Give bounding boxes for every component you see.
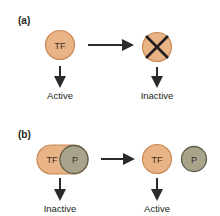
state-label-active: Active [144,203,170,214]
tf-inactivated-node [143,33,172,62]
panel-b: (b) TF P TF P Inactive Active [18,129,207,214]
tf-p-complex: TF P [37,145,88,174]
p-label: P [72,155,78,165]
panel-b-label: (b) [18,129,31,140]
tf-label: TF [47,155,58,165]
p-label: P [191,155,197,165]
tf-free-node: TF [143,145,172,174]
diagram-canvas: (a) TF Active Inactive (b) TF P [0,0,220,216]
panel-a-label: (a) [18,15,30,26]
panel-a: (a) TF Active Inactive [18,15,173,101]
tf-label: TF [152,155,163,165]
tf-active-node: TF [46,31,75,60]
state-label-inactive: Inactive [141,90,174,101]
state-label-active: Active [47,90,73,101]
p-free-node: P [182,147,207,172]
state-label-inactive: Inactive [44,203,77,214]
tf-label: TF [55,41,66,51]
